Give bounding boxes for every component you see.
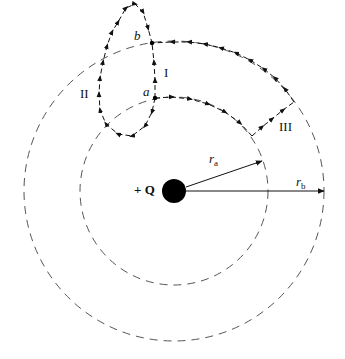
label-path-II: II — [80, 87, 89, 100]
label-rb: rb — [296, 175, 306, 191]
path-outer-arc — [152, 42, 294, 102]
label-charge: + Q — [134, 183, 155, 196]
path-I — [152, 43, 155, 98]
label-b: b — [134, 29, 141, 42]
diagram-canvas: b a I II III + Q ra rb — [0, 0, 345, 359]
charge-q — [162, 179, 186, 203]
label-path-III: III — [279, 120, 292, 133]
label-ra-sub: a — [214, 158, 218, 168]
radius-a-arrow — [186, 161, 262, 187]
path-a-inner-arc — [155, 97, 252, 136]
path-II — [99, 4, 155, 136]
label-path-I: I — [164, 66, 168, 79]
point-a-dot — [153, 96, 157, 100]
point-b-dot — [150, 41, 154, 45]
label-rb-sub: b — [301, 181, 306, 191]
field-diagram — [0, 0, 345, 359]
label-a: a — [143, 85, 150, 98]
label-ra: ra — [209, 152, 218, 168]
